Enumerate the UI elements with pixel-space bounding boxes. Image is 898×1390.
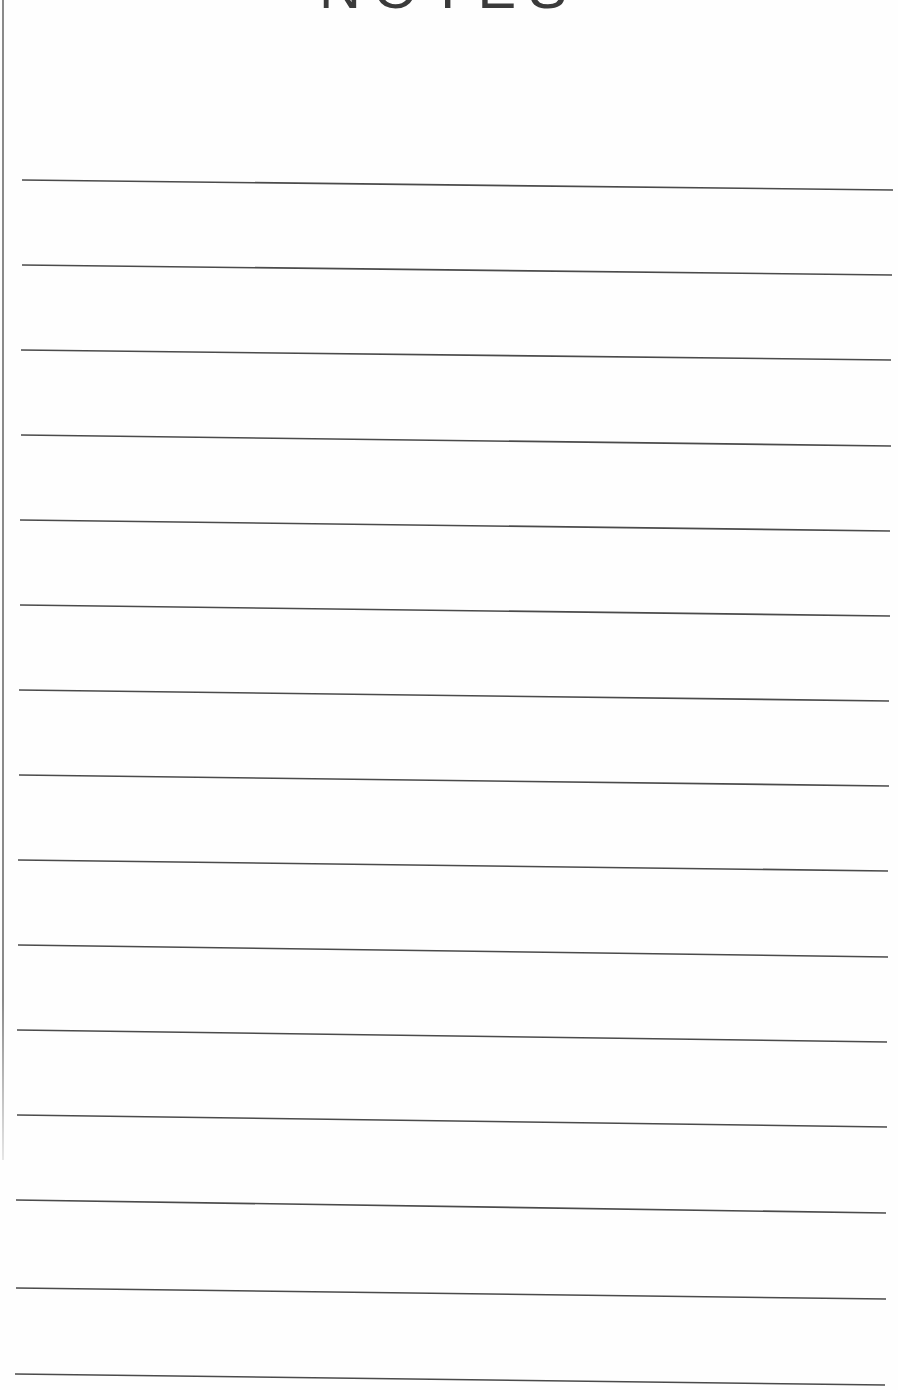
writing-line-11 — [17, 1030, 887, 1042]
writing-line-7 — [19, 690, 889, 701]
writing-line-12 — [17, 1115, 887, 1127]
writing-line-9 — [18, 860, 888, 871]
writing-line-6 — [20, 605, 890, 616]
writing-line-1 — [22, 180, 893, 190]
ruled-lines — [0, 0, 898, 1390]
writing-line-2 — [22, 265, 892, 275]
writing-line-4 — [21, 435, 891, 446]
writing-line-15 — [15, 1374, 885, 1385]
writing-line-13 — [16, 1200, 886, 1213]
writing-line-8 — [19, 775, 889, 786]
writing-line-10 — [18, 945, 888, 957]
writing-line-14 — [16, 1288, 886, 1299]
notes-page: NOTES — [0, 0, 898, 1390]
writing-line-3 — [21, 350, 891, 360]
writing-line-5 — [20, 520, 890, 531]
